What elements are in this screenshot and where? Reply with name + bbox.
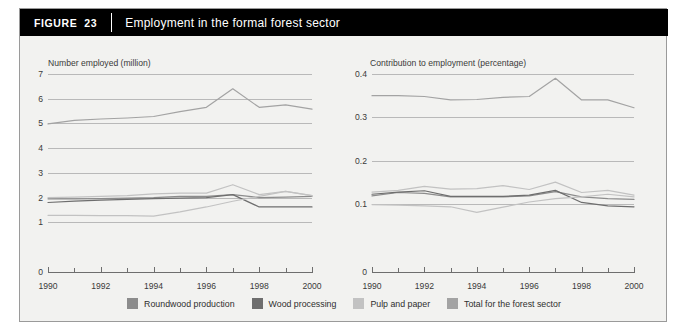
x-axis-tick xyxy=(503,268,504,273)
x-tick-label: 1992 xyxy=(91,281,110,291)
x-tick-label: 1998 xyxy=(250,281,269,291)
x-tick-label: 2000 xyxy=(302,281,321,291)
chart-panel-number-employed: Number employed (million) 01234567199019… xyxy=(20,36,344,294)
x-axis-tick xyxy=(180,268,181,273)
legend-item: Total for the forest sector xyxy=(447,298,561,309)
x-axis-tick xyxy=(48,267,49,273)
chart-legend: Roundwood productionWood processingPulp … xyxy=(20,298,668,309)
header-divider xyxy=(111,13,112,32)
series-line xyxy=(372,78,634,107)
x-tick-label: 2000 xyxy=(624,281,643,291)
legend-item: Roundwood production xyxy=(127,298,234,309)
x-axis-tick xyxy=(424,267,425,273)
x-axis-tick xyxy=(634,267,635,273)
x-tick-label: 1994 xyxy=(467,281,486,291)
y-tick-label: 0 xyxy=(362,267,367,277)
figure-panel: FIGURE 23 Employment in the formal fores… xyxy=(19,8,667,322)
x-axis-tick xyxy=(608,268,609,273)
x-axis-tick xyxy=(101,267,102,273)
x-axis-tick xyxy=(477,267,478,273)
x-axis-tick xyxy=(233,268,234,273)
y-tick-label: 3 xyxy=(38,168,43,178)
x-tick-label: 1998 xyxy=(572,281,591,291)
series-line xyxy=(48,191,312,216)
legend-label: Pulp and paper xyxy=(370,299,430,309)
y-tick-label: 0.4 xyxy=(355,69,367,79)
figure-number: 23 xyxy=(77,17,97,29)
y-tick-label: 1 xyxy=(38,217,43,227)
x-tick-label: 1994 xyxy=(144,281,163,291)
x-axis-tick xyxy=(555,268,556,273)
y-tick-label: 0.2 xyxy=(355,156,367,166)
chart-axis-title-right: Contribution to employment (percentage) xyxy=(370,58,526,68)
series-lines xyxy=(48,74,312,247)
legend-swatch xyxy=(447,298,458,309)
x-axis-tick xyxy=(529,267,530,273)
figure-tag-label: FIGURE xyxy=(20,17,77,29)
x-tick-label: 1992 xyxy=(415,281,434,291)
x-axis-tick xyxy=(154,267,155,273)
figure-title: Employment in the formal forest sector xyxy=(125,16,340,30)
legend-swatch xyxy=(252,298,263,309)
x-tick-label: 1990 xyxy=(38,281,57,291)
x-axis-tick xyxy=(582,267,583,273)
x-axis-tick xyxy=(312,267,313,273)
x-axis-tick xyxy=(206,267,207,273)
y-tick-label: 0.3 xyxy=(355,112,367,122)
legend-swatch xyxy=(127,298,138,309)
x-tick-label: 1996 xyxy=(197,281,216,291)
legend-swatch xyxy=(353,298,364,309)
y-tick-label: 5 xyxy=(38,118,43,128)
y-tick-label: 7 xyxy=(38,69,43,79)
y-tick-label: 6 xyxy=(38,94,43,104)
legend-label: Total for the forest sector xyxy=(464,299,561,309)
y-tick-label: 0.1 xyxy=(355,199,367,209)
legend-item: Pulp and paper xyxy=(353,298,430,309)
chart-panel-contribution: Contribution to employment (percentage) … xyxy=(342,36,666,294)
series-line xyxy=(48,89,312,124)
x-axis-tick xyxy=(451,268,452,273)
series-line xyxy=(48,185,312,198)
legend-label: Roundwood production xyxy=(144,299,234,309)
x-tick-label: 1990 xyxy=(362,281,381,291)
x-axis-tick xyxy=(372,267,373,273)
x-axis-tick xyxy=(286,268,287,273)
series-lines xyxy=(372,74,634,247)
legend-label: Wood processing xyxy=(269,299,337,309)
x-axis-tick xyxy=(259,267,260,273)
y-tick-label: 2 xyxy=(38,193,43,203)
y-tick-label: 4 xyxy=(38,143,43,153)
y-tick-label: 0 xyxy=(38,267,43,277)
x-tick-label: 1996 xyxy=(520,281,539,291)
x-axis-tick xyxy=(398,268,399,273)
chart-axis-title-left: Number employed (million) xyxy=(48,58,151,68)
x-axis-tick xyxy=(74,268,75,273)
legend-item: Wood processing xyxy=(252,298,337,309)
plot-area-left: 01234567199019921994199619982000 xyxy=(48,74,312,247)
x-axis-tick xyxy=(127,268,128,273)
figure-header: FIGURE 23 Employment in the formal fores… xyxy=(20,9,668,36)
plot-area-right: 00.10.20.30.4199019921994199619982000 xyxy=(372,74,634,247)
